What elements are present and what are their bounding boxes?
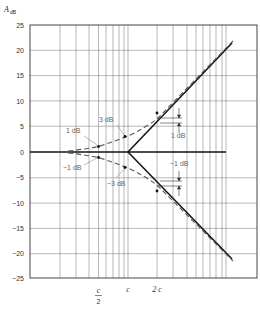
y-axis-label-sub: dB xyxy=(10,9,17,15)
svg-text:15: 15 xyxy=(16,72,24,79)
upper-exact-curve xyxy=(60,41,233,152)
annotation-minus-3db: −3 dB xyxy=(107,180,126,187)
svg-text:0: 0 xyxy=(20,149,24,156)
x-tick-c-half-numerator: c xyxy=(97,286,101,295)
upper-1db-dimension xyxy=(157,108,182,133)
svg-text:5: 5 xyxy=(20,123,24,130)
svg-text:−20: −20 xyxy=(12,250,24,257)
annotation-1db-left: 1 dB xyxy=(66,127,81,134)
svg-text:−5: −5 xyxy=(16,174,24,181)
annotation-minus-1db-left: −1 dB xyxy=(63,164,82,171)
svg-text:−10: −10 xyxy=(12,200,24,207)
y-axis-label: A xyxy=(3,5,9,14)
annotation-1db-right: 1 dB xyxy=(171,132,186,139)
x-tick-c: c xyxy=(126,285,130,294)
svg-text:−15: −15 xyxy=(12,225,24,232)
y-tick-labels: 25 20 15 10 5 0 −5 −10 −15 −20 −25 xyxy=(12,22,24,282)
annotation-minus-1db-right: −1 dB xyxy=(170,160,189,167)
lower-asymptote xyxy=(128,152,232,259)
svg-text:−25: −25 xyxy=(12,275,24,282)
svg-text:25: 25 xyxy=(16,22,24,29)
annotation-3db: 3 dB xyxy=(99,116,114,123)
lower-1db-dimension xyxy=(157,171,182,196)
svg-text:10: 10 xyxy=(16,98,24,105)
x-tick-2c: 2 c xyxy=(152,285,162,294)
bode-chart: A dB 25 20 15 10 xyxy=(0,0,260,310)
lower-exact-curve xyxy=(60,152,233,261)
x-tick-c-half-denominator: 2 xyxy=(97,298,101,305)
svg-text:20: 20 xyxy=(16,47,24,54)
